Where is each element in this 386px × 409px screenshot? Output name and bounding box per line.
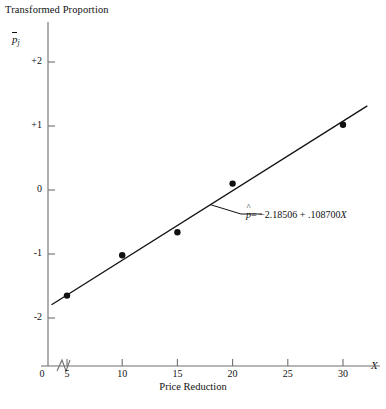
data-point-group — [64, 122, 346, 299]
y-tick-label: -1 — [20, 247, 42, 258]
data-point — [174, 229, 180, 235]
x-origin-label: 0 — [30, 368, 54, 379]
data-point — [229, 180, 235, 186]
axes-group — [41, 22, 380, 371]
x-tick-label: 20 — [221, 368, 245, 379]
x-tick-label: 10 — [110, 368, 134, 379]
data-point — [119, 252, 125, 258]
data-point — [340, 122, 346, 128]
x-tick-label: 5 — [55, 368, 79, 379]
annotation-leader-line — [211, 205, 263, 214]
y-tick-label: -2 — [20, 311, 42, 322]
y-tick-label: 0 — [20, 183, 42, 194]
x-tick-label: 25 — [276, 368, 300, 379]
x-tick-label: 30 — [331, 368, 355, 379]
data-point — [64, 292, 70, 298]
x-tick-group — [67, 359, 343, 366]
x-tick-label: 15 — [165, 368, 189, 379]
y-tick-label: +1 — [20, 119, 42, 130]
y-tick-group — [48, 62, 55, 318]
y-tick-label: +2 — [20, 55, 42, 66]
regression-line — [52, 106, 368, 305]
chart-container: Transformed Proportion pj X Price Reduct… — [0, 0, 386, 409]
plot-svg — [0, 0, 386, 409]
